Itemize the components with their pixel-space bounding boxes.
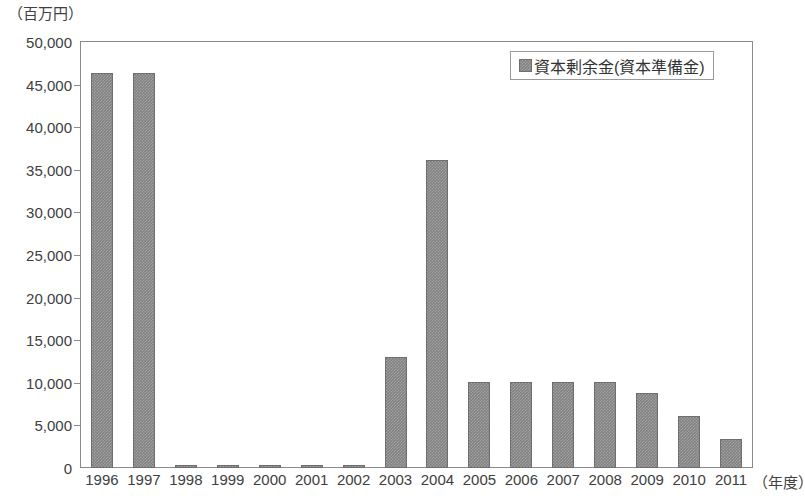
- x-tick-label-1996: 1996: [85, 471, 118, 488]
- x-tick-label-2003: 2003: [379, 471, 412, 488]
- bar-2003: [385, 357, 407, 468]
- y-tick-label: 30,000: [26, 204, 72, 221]
- bar-2008: [594, 382, 616, 468]
- x-tick-label-2001: 2001: [295, 471, 328, 488]
- bar-series-layer: [81, 42, 752, 468]
- bar-1996: [91, 73, 113, 468]
- x-tick-label-2009: 2009: [630, 471, 663, 488]
- bar-2005: [468, 382, 490, 468]
- x-tick-label-2000: 2000: [253, 471, 286, 488]
- x-tick-label-2008: 2008: [589, 471, 622, 488]
- y-tick-label: 20,000: [26, 289, 72, 306]
- bar-1998: [175, 465, 197, 468]
- bar-2007: [552, 382, 574, 468]
- legend-label: 資本剰余金(資本準備金): [534, 54, 705, 78]
- x-tick-label-1999: 1999: [211, 471, 244, 488]
- x-tick-label-2004: 2004: [421, 471, 454, 488]
- x-tick-label-2006: 2006: [505, 471, 538, 488]
- x-tick-label-2007: 2007: [547, 471, 580, 488]
- bar-2004: [426, 160, 448, 468]
- bar-2010: [678, 416, 700, 468]
- y-tick-label: 5,000: [34, 417, 72, 434]
- y-axis-labels: 05,00010,00015,00020,00025,00030,00035,0…: [0, 41, 72, 468]
- chart-legend: 資本剰余金(資本準備金): [510, 51, 714, 80]
- bar-2011: [720, 439, 742, 468]
- bar-2006: [510, 382, 532, 468]
- x-axis-unit-label: （年度）: [753, 471, 805, 492]
- y-axis-unit-label: （百万円）: [8, 2, 83, 23]
- x-axis-labels: 1996199719981999200020012002200320042005…: [81, 471, 752, 497]
- x-tick-label-2010: 2010: [672, 471, 705, 488]
- y-tick-label: 0: [64, 460, 72, 477]
- bar-2000: [259, 465, 281, 468]
- bar-1999: [217, 465, 239, 468]
- legend-swatch-icon: [519, 59, 532, 72]
- y-tick-label: 10,000: [26, 374, 72, 391]
- y-tick-label: 50,000: [26, 34, 72, 51]
- bar-2002: [343, 465, 365, 468]
- bar-2001: [301, 465, 323, 468]
- x-tick-label-2005: 2005: [463, 471, 496, 488]
- x-tick-label-2002: 2002: [337, 471, 370, 488]
- y-tick-label: 45,000: [26, 76, 72, 93]
- y-tick-label: 35,000: [26, 161, 72, 178]
- x-tick-label-1998: 1998: [169, 471, 202, 488]
- y-tick-label: 25,000: [26, 247, 72, 264]
- bar-1997: [133, 73, 155, 468]
- bar-2009: [636, 393, 658, 468]
- y-tick-label: 40,000: [26, 119, 72, 136]
- x-tick-label-2011: 2011: [715, 471, 747, 488]
- x-tick-label-1997: 1997: [127, 471, 160, 488]
- y-tick-label: 15,000: [26, 332, 72, 349]
